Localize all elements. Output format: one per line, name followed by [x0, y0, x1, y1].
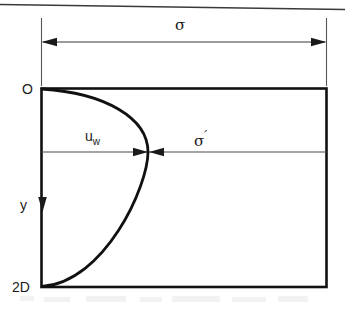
origin-label: O: [22, 82, 33, 96]
diagram-canvas: [0, 0, 345, 309]
uw-arrowhead-right: [133, 148, 148, 156]
wake-profile-curve: [42, 89, 148, 287]
sigma-arrowhead-left: [42, 38, 58, 46]
sigma-prime-label: σ′: [194, 129, 207, 149]
scan-ghost-bottom: [20, 296, 308, 302]
scan-artifact-line: [0, 5, 345, 10]
uw-subscript: w: [93, 136, 100, 147]
sigma-arrowhead-right: [311, 38, 327, 46]
uw-base: u: [85, 128, 93, 144]
prime-mark: ′: [204, 128, 207, 143]
control-region-rectangle: [42, 89, 327, 288]
y-axis-label: y: [20, 198, 27, 212]
y-axis-arrowhead: [38, 197, 47, 212]
bottom-extent-label: 2D: [12, 280, 30, 294]
sigma-label: σ: [175, 18, 185, 33]
figure-container: σ σ′ uw O y 2D: [0, 0, 345, 309]
sigma-prime-base: σ: [194, 132, 204, 150]
uw-label: uw: [85, 129, 100, 147]
sigma-prime-arrowhead-left: [149, 148, 164, 156]
